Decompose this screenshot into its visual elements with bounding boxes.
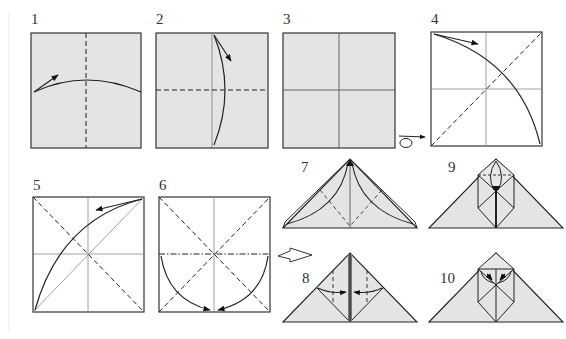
step-1-diagram: [31, 33, 141, 148]
step-2-diagram: [156, 33, 268, 148]
step-9-diagram: [429, 159, 563, 228]
origami-diagram: [0, 0, 566, 339]
step-5-diagram: [33, 197, 144, 312]
step-7-diagram: [283, 159, 417, 228]
step-10-diagram: [429, 253, 563, 322]
step-4-diagram: [431, 32, 542, 146]
turn-over-icon: [399, 136, 425, 148]
step-3-diagram: [283, 33, 395, 148]
step-6-diagram: [159, 197, 270, 312]
outline-arrow-icon: [278, 248, 312, 262]
step-8-diagram: [283, 253, 417, 322]
